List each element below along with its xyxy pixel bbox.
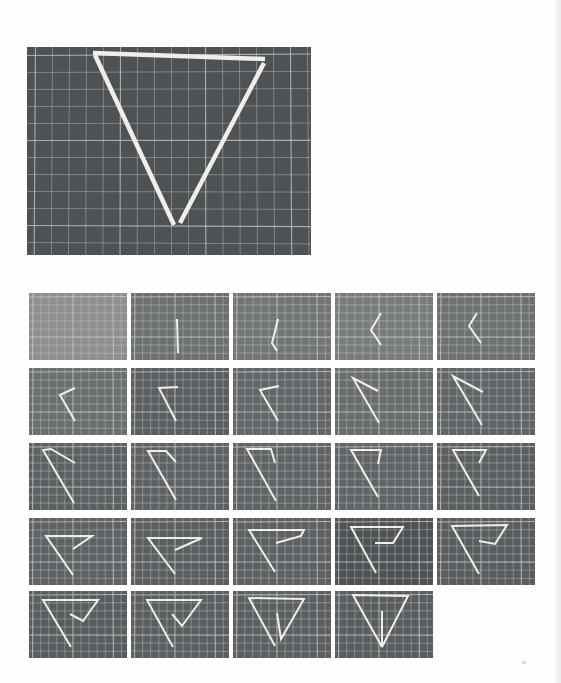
sequence-step-9: [335, 368, 433, 435]
sequence-step-3: [233, 293, 331, 360]
sequence-step-18: [233, 518, 331, 585]
sequence-step-11: [29, 443, 127, 510]
sequence-step-7: [131, 368, 229, 435]
sequence-step-13: [233, 443, 331, 510]
sequence-step-17: [131, 518, 229, 585]
scan-speck: [522, 661, 526, 664]
sequence-step-16: [29, 518, 127, 585]
sequence-step-23: [233, 591, 331, 658]
sequence-step-15: [437, 443, 535, 510]
sequence-step-24: [335, 591, 433, 658]
sequence-step-12: [131, 443, 229, 510]
document-page: [0, 0, 561, 683]
sequence-step-1: [29, 293, 127, 360]
sequence-step-20: [437, 518, 535, 585]
main-triangle-photo: [27, 47, 311, 255]
sequence-step-14: [335, 443, 433, 510]
sequence-step-5: [437, 293, 535, 360]
sequence-step-19: [335, 518, 433, 585]
sequence-step-2: [131, 293, 229, 360]
sequence-step-10: [437, 368, 535, 435]
sequence-step-6: [29, 368, 127, 435]
sequence-step-22: [131, 591, 229, 658]
sequence-step-21: [29, 591, 127, 658]
sequence-step-8: [233, 368, 331, 435]
sequence-step-4: [335, 293, 433, 360]
page-edge-shadow: [553, 0, 561, 683]
